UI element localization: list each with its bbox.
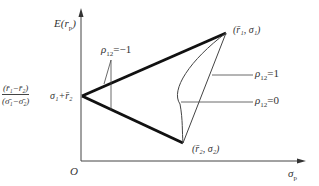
x-axis-label: σp — [288, 168, 297, 182]
rho-plus-1-label: ρ12=1 — [255, 68, 279, 82]
origin-label: O — [70, 166, 78, 177]
rho-minus-1-leader-a — [104, 60, 111, 84]
rho-minus-1-label: ρ12=−1 — [101, 44, 131, 58]
point-asset2-label: (r̄₂, σ₂) — [192, 144, 219, 154]
fraction-numerator: (r̄₁−r̄₂) — [2, 83, 29, 95]
diagram-canvas — [0, 0, 319, 186]
point-asset1-label: (r̄₁, σ₁) — [233, 25, 260, 35]
fraction-denominator: (σ̄₁−σ̄₂) — [2, 95, 29, 106]
y-axis-label: E(rp) — [54, 18, 76, 32]
rho-minus-1-lower-line — [82, 96, 183, 143]
rho-zero-label: ρ12=0 — [255, 95, 279, 109]
x-axis-arrow-icon — [297, 159, 306, 164]
intercept-fraction: (r̄₁−r̄₂) (σ̄₁−σ̄₂) — [2, 83, 29, 106]
intercept-suffix: σ₁+r̄₂ — [50, 91, 73, 101]
y-axis-arrow-icon — [79, 8, 84, 17]
